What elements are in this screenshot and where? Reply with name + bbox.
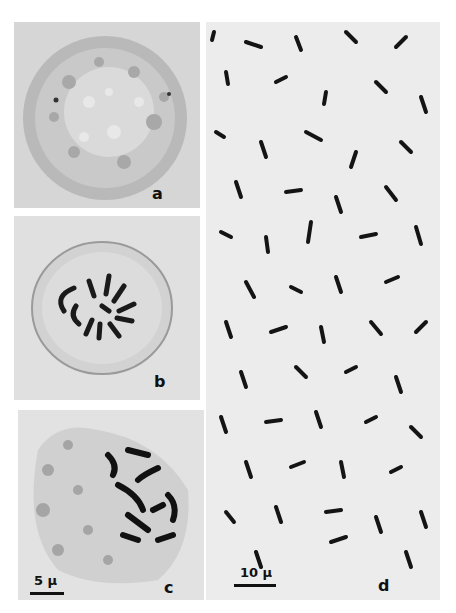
scale-bar-c <box>30 592 64 595</box>
cell-image-c <box>18 410 204 600</box>
scale-bar-d <box>234 584 276 587</box>
panel-label-c: c <box>164 580 173 596</box>
cell-image-a <box>14 22 200 208</box>
panel-c: 5 μ c <box>18 410 204 600</box>
chromosome-field-d <box>206 22 440 600</box>
panel-label-a: a <box>152 186 163 202</box>
scale-label-c: 5 μ <box>34 574 57 587</box>
panel-label-b: b <box>154 374 165 390</box>
panel-d: 10 μ d <box>206 22 440 600</box>
scale-label-d: 10 μ <box>240 566 272 579</box>
panel-b: b <box>14 216 200 400</box>
panel-a: a <box>14 22 200 208</box>
cell-image-b <box>14 216 200 400</box>
panel-label-d: d <box>378 578 389 594</box>
